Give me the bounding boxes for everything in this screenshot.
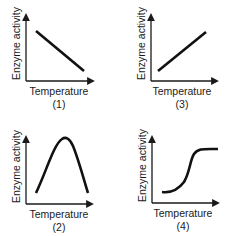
panel-number: (4) [177,220,190,232]
graph-panel-1: Enzyme activity Temperature (1) [10,6,91,110]
y-axis-label: Enzyme activity [10,129,22,203]
graph-panel-4: Enzyme activity Temperature (4) [136,128,218,232]
x-axis-label: Temperature [154,207,213,219]
data-curve [162,149,218,192]
panel-number: (2) [53,221,66,233]
panel-number: (1) [53,98,66,110]
y-axis-label: Enzyme activity [10,6,22,80]
y-axis-label: Enzyme activity [136,128,148,202]
y-axis-label: Enzyme activity [135,6,147,80]
graph-panel-2: Enzyme activity Temperature (2) [10,129,90,233]
data-line [36,31,84,71]
graph-panel-3: Enzyme activity Temperature (3) [135,6,215,110]
x-axis-label: Temperature [30,85,89,97]
data-line [158,32,206,71]
x-axis-label: Temperature [153,85,212,97]
enzyme-graphs-figure: Enzyme activity Temperature (1) Enzyme a… [0,0,227,236]
panel-number: (3) [176,98,189,110]
x-axis-label: Temperature [30,208,89,220]
data-curve [36,138,88,193]
